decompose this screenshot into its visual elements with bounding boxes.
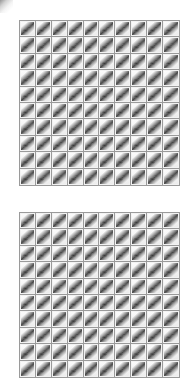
- thumbnail-cell[interactable]: [115, 70, 131, 86]
- thumbnail-cell[interactable]: [99, 37, 115, 53]
- thumbnail-cell[interactable]: [115, 21, 131, 37]
- thumbnail-cell[interactable]: [52, 295, 68, 311]
- thumbnail-cell[interactable]: [131, 213, 147, 229]
- thumbnail-cell[interactable]: [20, 37, 36, 53]
- thumbnail-cell[interactable]: [99, 311, 115, 327]
- thumbnail-cell[interactable]: [131, 295, 147, 311]
- thumbnail-cell[interactable]: [52, 229, 68, 245]
- thumbnail-cell[interactable]: [20, 295, 36, 311]
- thumbnail-cell[interactable]: [147, 344, 163, 360]
- thumbnail-cell[interactable]: [36, 262, 52, 278]
- thumbnail-cell[interactable]: [52, 328, 68, 344]
- thumbnail-cell[interactable]: [68, 54, 84, 70]
- thumbnail-cell[interactable]: [163, 311, 179, 327]
- thumbnail-cell[interactable]: [131, 70, 147, 86]
- thumbnail-cell[interactable]: [115, 311, 131, 327]
- thumbnail-cell[interactable]: [147, 169, 163, 185]
- thumbnail-cell[interactable]: [163, 37, 179, 53]
- thumbnail-cell[interactable]: [68, 70, 84, 86]
- thumbnail-cell[interactable]: [99, 229, 115, 245]
- thumbnail-cell[interactable]: [163, 152, 179, 168]
- thumbnail-cell[interactable]: [99, 295, 115, 311]
- thumbnail-cell[interactable]: [20, 229, 36, 245]
- thumbnail-cell[interactable]: [84, 169, 100, 185]
- thumbnail-cell[interactable]: [99, 344, 115, 360]
- thumbnail-cell[interactable]: [84, 152, 100, 168]
- thumbnail-cell[interactable]: [36, 152, 52, 168]
- thumbnail-cell[interactable]: [99, 213, 115, 229]
- thumbnail-cell[interactable]: [163, 328, 179, 344]
- thumbnail-cell[interactable]: [131, 311, 147, 327]
- thumbnail-cell[interactable]: [84, 279, 100, 295]
- thumbnail-cell[interactable]: [68, 262, 84, 278]
- thumbnail-cell[interactable]: [20, 311, 36, 327]
- thumbnail-cell[interactable]: [147, 213, 163, 229]
- thumbnail-cell[interactable]: [68, 344, 84, 360]
- thumbnail-cell[interactable]: [36, 361, 52, 377]
- thumbnail-cell[interactable]: [163, 54, 179, 70]
- thumbnail-cell[interactable]: [147, 136, 163, 152]
- thumbnail-cell[interactable]: [99, 279, 115, 295]
- thumbnail-cell[interactable]: [115, 37, 131, 53]
- thumbnail-cell[interactable]: [115, 103, 131, 119]
- thumbnail-cell[interactable]: [20, 70, 36, 86]
- thumbnail-cell[interactable]: [115, 152, 131, 168]
- thumbnail-cell[interactable]: [36, 103, 52, 119]
- thumbnail-cell[interactable]: [163, 229, 179, 245]
- thumbnail-cell[interactable]: [147, 119, 163, 135]
- thumbnail-cell[interactable]: [20, 328, 36, 344]
- thumbnail-cell[interactable]: [20, 213, 36, 229]
- thumbnail-cell[interactable]: [20, 344, 36, 360]
- thumbnail-cell[interactable]: [52, 119, 68, 135]
- thumbnail-cell[interactable]: [147, 279, 163, 295]
- thumbnail-cell[interactable]: [36, 87, 52, 103]
- thumbnail-cell[interactable]: [52, 21, 68, 37]
- thumbnail-cell[interactable]: [52, 361, 68, 377]
- thumbnail-cell[interactable]: [36, 344, 52, 360]
- thumbnail-cell[interactable]: [115, 328, 131, 344]
- thumbnail-cell[interactable]: [84, 37, 100, 53]
- thumbnail-cell[interactable]: [68, 311, 84, 327]
- thumbnail-cell[interactable]: [68, 87, 84, 103]
- thumbnail-cell[interactable]: [36, 54, 52, 70]
- thumbnail-cell[interactable]: [147, 311, 163, 327]
- thumbnail-cell[interactable]: [52, 279, 68, 295]
- thumbnail-cell[interactable]: [84, 229, 100, 245]
- thumbnail-cell[interactable]: [20, 262, 36, 278]
- thumbnail-cell[interactable]: [163, 344, 179, 360]
- thumbnail-cell[interactable]: [147, 87, 163, 103]
- thumbnail-cell[interactable]: [68, 361, 84, 377]
- thumbnail-cell[interactable]: [131, 279, 147, 295]
- thumbnail-cell[interactable]: [163, 213, 179, 229]
- thumbnail-cell[interactable]: [115, 229, 131, 245]
- thumbnail-cell[interactable]: [84, 70, 100, 86]
- thumbnail-cell[interactable]: [52, 344, 68, 360]
- thumbnail-cell[interactable]: [52, 152, 68, 168]
- thumbnail-cell[interactable]: [147, 229, 163, 245]
- thumbnail-cell[interactable]: [163, 70, 179, 86]
- thumbnail-cell[interactable]: [84, 311, 100, 327]
- thumbnail-cell[interactable]: [147, 361, 163, 377]
- thumbnail-cell[interactable]: [115, 361, 131, 377]
- thumbnail-cell[interactable]: [99, 54, 115, 70]
- thumbnail-cell[interactable]: [115, 213, 131, 229]
- thumbnail-cell[interactable]: [20, 103, 36, 119]
- thumbnail-cell[interactable]: [52, 262, 68, 278]
- thumbnail-cell[interactable]: [147, 54, 163, 70]
- thumbnail-cell[interactable]: [36, 213, 52, 229]
- thumbnail-cell[interactable]: [84, 246, 100, 262]
- thumbnail-cell[interactable]: [36, 119, 52, 135]
- thumbnail-cell[interactable]: [163, 246, 179, 262]
- thumbnail-cell[interactable]: [84, 262, 100, 278]
- thumbnail-cell[interactable]: [68, 229, 84, 245]
- thumbnail-cell[interactable]: [147, 21, 163, 37]
- thumbnail-cell[interactable]: [20, 169, 36, 185]
- thumbnail-cell[interactable]: [68, 37, 84, 53]
- thumbnail-cell[interactable]: [84, 87, 100, 103]
- thumbnail-cell[interactable]: [36, 295, 52, 311]
- thumbnail-cell[interactable]: [20, 54, 36, 70]
- thumbnail-cell[interactable]: [84, 344, 100, 360]
- thumbnail-cell[interactable]: [68, 213, 84, 229]
- thumbnail-cell[interactable]: [131, 54, 147, 70]
- thumbnail-cell[interactable]: [131, 328, 147, 344]
